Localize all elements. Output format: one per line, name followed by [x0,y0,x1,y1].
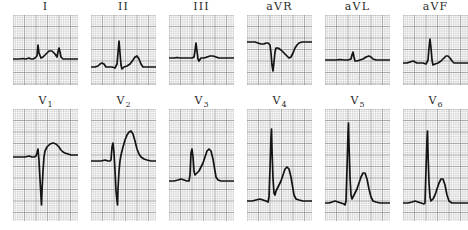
lead-label-II: II [91,0,156,15]
lead-panel-V3 [169,109,234,221]
lead-label-I: I [13,0,78,15]
lead-label-text: aVR [266,0,292,13]
lead-panel-V5 [325,109,390,221]
ecg-grid [169,109,234,221]
lead-panel-aVL [325,15,390,85]
ecg-grid [325,15,390,85]
lead-label-V5: V5 [325,94,390,109]
lead-label-text: V [272,94,281,107]
lead-label-text: V [116,94,125,107]
lead-panel-I [13,15,78,85]
lead-label-subscript: 3 [204,100,209,109]
lead-label-text: III [193,0,210,13]
lead-label-aVR: aVR [247,0,312,15]
lead-panel-II [91,15,156,85]
lead-label-subscript: 6 [438,100,443,109]
lead-label-subscript: 1 [48,100,53,109]
lead-cell-V3: V3 [169,94,234,230]
ecg-grid [403,15,468,85]
lead-panel-III [169,15,234,85]
ecg-grid [13,15,78,85]
ecg-row-limb-leads: I II III aVR aVL [0,0,463,92]
lead-label-V6: V6 [403,94,468,109]
lead-panel-V2 [91,109,156,221]
ecg-row-precordial-leads: V1 V2 V3 V4 V5 [0,94,463,230]
lead-label-V1: V1 [13,94,78,109]
lead-cell-V1: V1 [13,94,78,230]
lead-cell-aVF: aVF [403,0,468,92]
lead-label-text: aVL [345,0,370,13]
lead-cell-aVL: aVL [325,0,390,92]
lead-label-text: V [428,94,437,107]
lead-label-subscript: 4 [282,100,287,109]
lead-label-text: aVF [423,0,449,13]
lead-panel-V6 [403,109,468,221]
lead-cell-V6: V6 [403,94,468,230]
lead-panel-aVR [247,15,312,85]
lead-cell-V5: V5 [325,94,390,230]
lead-panel-V4 [247,109,312,221]
ecg-grid [169,15,234,85]
lead-label-text: V [194,94,203,107]
lead-cell-III: III [169,0,234,92]
lead-label-V2: V2 [91,94,156,109]
lead-label-text: V [38,94,47,107]
lead-cell-V4: V4 [247,94,312,230]
lead-label-text: II [118,0,129,13]
lead-cell-I: I [13,0,78,92]
lead-label-V3: V3 [169,94,234,109]
lead-label-subscript: 5 [360,100,365,109]
lead-panel-aVF [403,15,468,85]
lead-label-subscript: 2 [126,100,131,109]
lead-cell-aVR: aVR [247,0,312,92]
lead-label-V4: V4 [247,94,312,109]
lead-label-III: III [169,0,234,15]
lead-cell-II: II [91,0,156,92]
ecg-grid [325,109,390,221]
lead-label-text: V [350,94,359,107]
lead-cell-V2: V2 [91,94,156,230]
lead-label-aVF: aVF [403,0,468,15]
ecg-grid [13,109,78,221]
ecg-grid [91,15,156,85]
ecg-grid [247,15,312,85]
ecg-grid [247,109,312,221]
ecg-grid [403,109,468,221]
lead-label-text: I [43,0,49,13]
lead-panel-V1 [13,109,78,221]
lead-label-aVL: aVL [325,0,390,15]
ecg-grid [91,109,156,221]
